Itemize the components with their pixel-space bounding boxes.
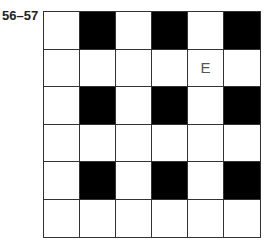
grid-cell[interactable] (44, 12, 80, 50)
grid-cell[interactable] (80, 200, 116, 238)
black-cell (80, 162, 116, 200)
grid-cell[interactable] (44, 87, 80, 125)
grid-cell[interactable] (80, 125, 116, 163)
grid-cell[interactable] (188, 125, 224, 163)
grid-cell[interactable] (44, 50, 80, 88)
grid-cell[interactable] (224, 50, 260, 88)
grid-cell[interactable] (152, 200, 188, 238)
puzzle-number-label: 56–57 (2, 8, 38, 23)
grid-cell[interactable]: E (188, 50, 224, 88)
grid-cell[interactable] (116, 12, 152, 50)
grid-cell[interactable] (188, 12, 224, 50)
grid-cell[interactable] (80, 50, 116, 88)
grid-cell[interactable] (44, 162, 80, 200)
grid-cell[interactable] (152, 50, 188, 88)
grid-cell[interactable] (188, 162, 224, 200)
grid-cell[interactable] (44, 125, 80, 163)
grid-cell[interactable] (188, 200, 224, 238)
crossword-grid: E (43, 11, 261, 238)
grid-cell[interactable] (224, 200, 260, 238)
grid-cell[interactable] (116, 162, 152, 200)
grid-cell[interactable] (116, 200, 152, 238)
black-cell (224, 87, 260, 125)
black-cell (152, 87, 188, 125)
black-cell (224, 12, 260, 50)
black-cell (152, 12, 188, 50)
black-cell (80, 12, 116, 50)
grid-cell[interactable] (116, 125, 152, 163)
cell-letter: E (200, 59, 210, 76)
grid-cell[interactable] (44, 200, 80, 238)
grid-cell[interactable] (224, 125, 260, 163)
black-cell (80, 87, 116, 125)
grid-cell[interactable] (116, 87, 152, 125)
black-cell (152, 162, 188, 200)
grid-cell[interactable] (188, 87, 224, 125)
black-cell (224, 162, 260, 200)
grid-cell[interactable] (152, 125, 188, 163)
grid-cell[interactable] (116, 50, 152, 88)
